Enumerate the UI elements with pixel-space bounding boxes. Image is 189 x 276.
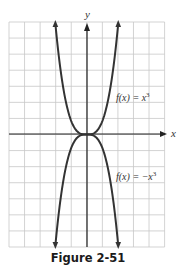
lower-curve-label: f(x) = −x3 [116, 170, 157, 183]
figure-caption: Figure 2-51 [0, 251, 176, 265]
y-axis-arrow-icon [84, 23, 90, 31]
x-axis-label: x [170, 127, 176, 139]
y-axis-label: y [84, 8, 90, 20]
upper-curve-label: f(x) = x3 [116, 91, 150, 104]
x-axis-arrow-icon [160, 131, 167, 137]
graph: x y f(x) = x3 f(x) = −x3 [0, 0, 189, 250]
